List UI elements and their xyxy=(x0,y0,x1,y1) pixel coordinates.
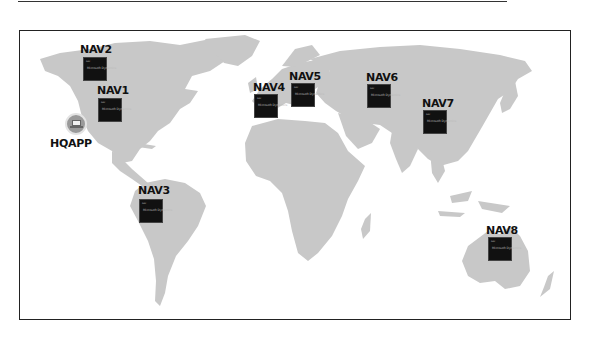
dynamics-nav-tile: NAV Microsoft Dynamics xyxy=(254,94,278,118)
map-frame: NAV2 NAV Microsoft Dynamics NAV1 NAV Mic… xyxy=(19,30,571,320)
dynamics-nav-tile: NAV Microsoft Dynamics xyxy=(139,199,163,223)
dynamics-nav-tile: NAV Microsoft Dynamics xyxy=(83,57,107,81)
hqapp-label: HQAPP xyxy=(50,137,92,150)
nav4-label: NAV4 xyxy=(253,81,285,94)
nav2-label: NAV2 xyxy=(80,43,112,56)
nav1-label: NAV1 xyxy=(97,84,129,97)
nav7-label: NAV7 xyxy=(422,97,454,110)
top-divider xyxy=(18,1,507,2)
dynamics-nav-tile: NAV Microsoft Dynamics xyxy=(423,110,447,134)
dynamics-nav-tile: NAV Microsoft Dynamics xyxy=(98,98,122,122)
laptop-base xyxy=(70,126,83,128)
nav8-label: NAV8 xyxy=(486,224,518,237)
nav5-label: NAV5 xyxy=(289,70,321,83)
dynamics-nav-tile: NAV Microsoft Dynamics xyxy=(488,237,512,261)
nav3-label: NAV3 xyxy=(138,184,170,197)
laptop-icon xyxy=(65,113,87,135)
dynamics-nav-tile: NAV Microsoft Dynamics xyxy=(291,83,315,107)
nav6-label: NAV6 xyxy=(366,71,398,84)
dynamics-nav-tile: NAV Microsoft Dynamics xyxy=(367,84,391,108)
